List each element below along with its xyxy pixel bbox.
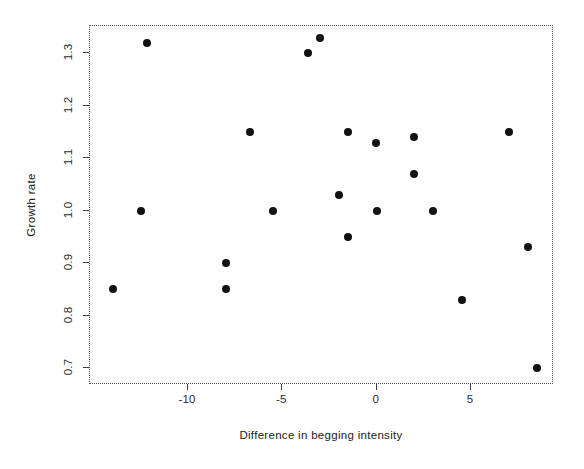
x-axis-tick-label: -10 [178,393,195,405]
data-point [222,285,230,293]
y-axis-tick-label: 1.3 [62,44,74,61]
y-axis-tick-label: 0.8 [62,306,74,323]
y-axis-tick-label: 1.1 [62,149,74,166]
scatter-plot-figure: 0.70.80.91.01.11.21.3 -10-505 Growth rat… [0,0,584,469]
y-axis-tick-label: 1.2 [62,96,74,113]
plot-area [89,25,553,384]
data-point [344,128,352,136]
data-point [429,207,437,215]
x-axis-tick-label: 5 [467,393,474,405]
x-axis-tick [281,384,282,390]
x-axis-tick-label: 0 [372,393,379,405]
x-axis-tick-label: -5 [276,393,287,405]
data-point [316,34,324,42]
data-point [304,49,312,57]
y-axis-title: Growth rate [25,173,37,236]
x-axis-tick [470,384,471,390]
y-axis-tick-label: 0.7 [62,359,74,376]
x-axis-title: Difference in begging intensity [239,429,402,441]
y-axis-tick-label: 1.0 [62,201,74,218]
x-axis-tick [376,384,377,390]
data-point [269,207,277,215]
data-point [372,139,380,147]
data-point [505,128,513,136]
data-point [410,170,418,178]
x-axis-tick [187,384,188,390]
data-point [246,128,254,136]
y-axis-tick-label: 0.9 [62,254,74,271]
data-point [524,243,532,251]
data-point [533,364,541,372]
data-point [222,259,230,267]
data-point [344,233,352,241]
data-point [137,207,145,215]
data-point [458,296,466,304]
data-point [410,133,418,141]
data-point [109,285,117,293]
data-point [373,207,381,215]
data-point [335,191,343,199]
data-point [143,39,151,47]
